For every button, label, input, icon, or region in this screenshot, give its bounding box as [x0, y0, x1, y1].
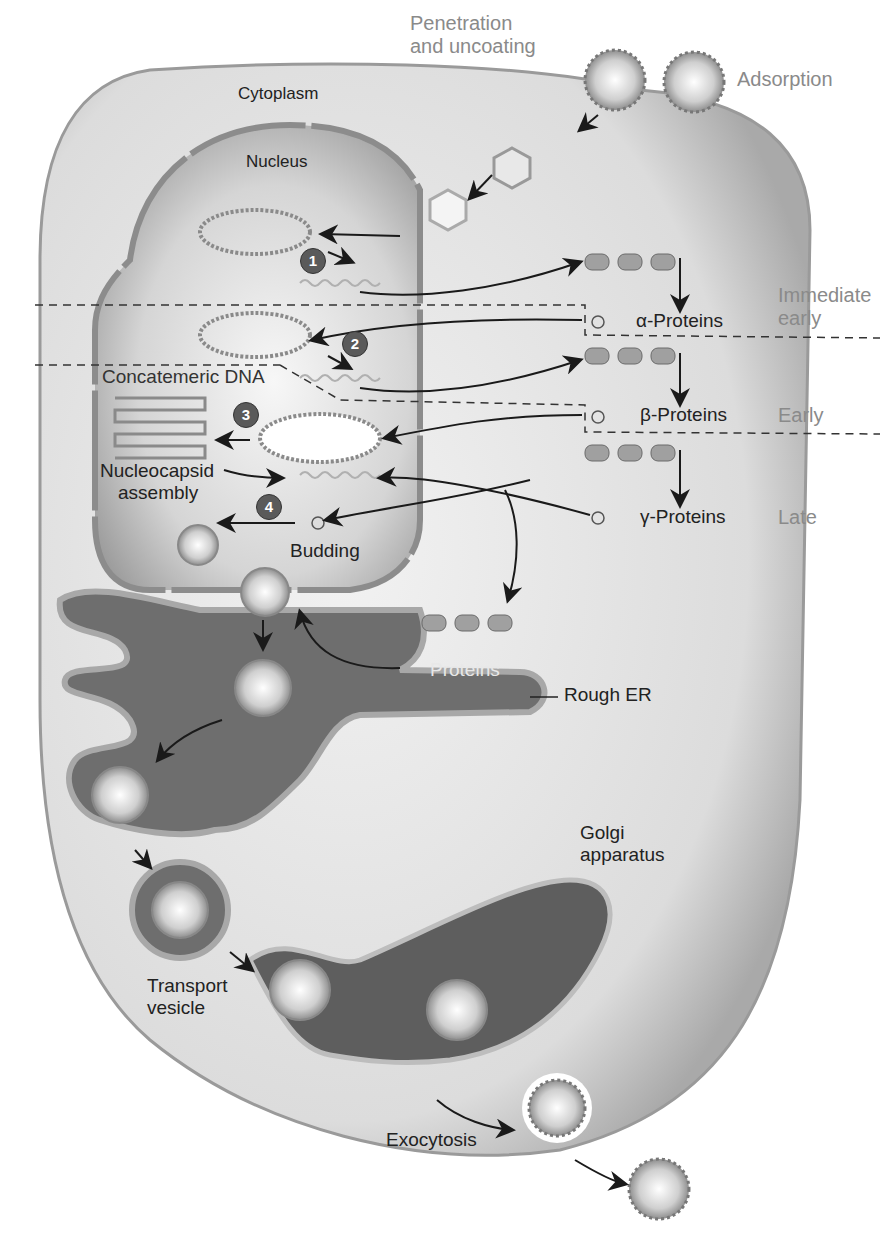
- label-phase-late: Late: [778, 506, 817, 529]
- label-penetration-line2: and uncoating: [410, 35, 536, 58]
- virion-budding: [241, 568, 289, 616]
- step-badge-1: 1: [300, 248, 326, 274]
- label-immediate: Immediate: [778, 284, 871, 307]
- virion-in-golgi: [427, 980, 487, 1040]
- virion-fusing-golgi: [270, 960, 330, 1020]
- label-transport: Transport: [147, 975, 228, 997]
- label-exocytosis: Exocytosis: [386, 1129, 477, 1151]
- virion-adsorption: [664, 52, 724, 112]
- label-golgi-apparatus: Golgi apparatus: [580, 822, 665, 866]
- label-nucleocapsid-assembly: Nucleocapsid assembly: [100, 460, 214, 504]
- ribosomes-alpha: [585, 254, 675, 270]
- ribosomes-gamma: [585, 445, 675, 461]
- virion-in-vesicle: [152, 882, 208, 938]
- label-adsorption: Adsorption: [737, 68, 833, 91]
- label-concatemeric-dna: Concatemeric DNA: [102, 366, 265, 388]
- virion-in-er-1: [235, 660, 291, 716]
- viral-dna-circle-3: [260, 414, 380, 462]
- virion-exocytosis: [522, 1073, 592, 1143]
- step-badge-3: 3: [233, 402, 259, 428]
- step-badge-2: 2: [342, 331, 368, 357]
- label-nucleus: Nucleus: [246, 152, 307, 172]
- ribosomes-beta: [585, 348, 675, 364]
- virion-adsorbing: [585, 50, 645, 110]
- label-vesicle: vesicle: [147, 997, 228, 1019]
- label-transport-vesicle: Transport vesicle: [147, 975, 228, 1019]
- label-phase-early: Early: [778, 404, 824, 427]
- virion-released: [629, 1159, 689, 1219]
- label-penetration: Penetration and uncoating: [410, 12, 536, 58]
- herpesvirus-replication-diagram: 1 2 3 4 Penetration and uncoating Adsorp…: [0, 0, 891, 1242]
- label-proteins: Proteins: [430, 659, 500, 681]
- label-apparatus: apparatus: [580, 844, 665, 866]
- capsid-uncoating: [494, 148, 530, 188]
- figure-caption-cutoff: [0, 1232, 891, 1242]
- ribosomes-er: [422, 615, 512, 631]
- diagram-canvas: [0, 0, 891, 1242]
- step-badge-4: 4: [256, 494, 282, 520]
- label-assembly: assembly: [100, 482, 214, 504]
- label-phase-immediate-early: Immediate early: [778, 284, 871, 330]
- label-rough-er: Rough ER: [564, 684, 652, 706]
- label-budding: Budding: [290, 540, 360, 562]
- nucleocapsid: [178, 525, 218, 565]
- label-penetration-line1: Penetration: [410, 12, 536, 35]
- capsid-at-nuclear-pore: [430, 190, 466, 230]
- label-early-sub: early: [778, 307, 871, 330]
- label-nucleocapsid: Nucleocapsid: [100, 460, 214, 482]
- label-golgi: Golgi: [580, 822, 665, 844]
- virion-in-er-2: [92, 767, 148, 823]
- label-cytoplasm: Cytoplasm: [238, 84, 318, 104]
- label-beta-proteins: β-Proteins: [640, 404, 727, 426]
- label-gamma-proteins: γ-Proteins: [640, 506, 726, 528]
- label-alpha-proteins: α-Proteins: [636, 310, 723, 332]
